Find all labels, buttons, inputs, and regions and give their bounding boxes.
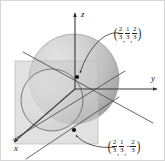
- lower-coord-z: 23: [130, 139, 135, 155]
- upper-point-label: (23,13,23): [113, 26, 142, 42]
- upper-point-marker: [75, 75, 79, 79]
- comma-2-upper: ,: [130, 36, 132, 44]
- upper-coord-z: 23: [132, 26, 137, 42]
- comma-1-upper: ,: [123, 36, 125, 44]
- y-axis-label: y: [150, 73, 155, 83]
- comma-2-lower: ,: [124, 149, 126, 157]
- open-paren-lower: (: [108, 139, 111, 154]
- comma-1-lower: ,: [117, 149, 119, 157]
- close-paren-upper: ): [138, 26, 141, 41]
- lower-point-marker: [72, 128, 76, 132]
- close-paren-lower: ): [136, 139, 139, 154]
- z-axis-label: z: [80, 9, 85, 19]
- intersection-circle: [21, 69, 83, 131]
- lower-point-label: (23,13,−23): [107, 139, 140, 155]
- figure-container: z y x (23,13,23) (23,13: [0, 0, 165, 161]
- x-axis-label: x: [13, 143, 18, 153]
- open-paren-upper: (: [114, 26, 117, 41]
